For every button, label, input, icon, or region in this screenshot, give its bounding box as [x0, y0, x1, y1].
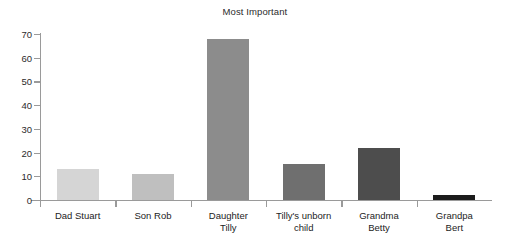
x-axis-tick: [341, 201, 342, 207]
y-axis-label: 10: [6, 171, 32, 182]
x-axis-category-label-line: Grandma: [341, 210, 416, 222]
x-axis-category-label-line: Grandpa: [417, 210, 492, 222]
x-axis-category-label-line: child: [266, 222, 341, 234]
x-axis-category-label: Dad Stuart: [40, 210, 115, 222]
x-axis-category-label: Tilly's unbornchild: [266, 210, 341, 233]
x-axis-category-label: DaughterTilly: [191, 210, 266, 233]
bar-chart: Most Important 706050403020100 Dad Stuar…: [0, 0, 510, 250]
x-axis-category-label-line: Dad Stuart: [40, 210, 115, 222]
x-axis-category-label: GrandmaBetty: [341, 210, 416, 233]
bar-1: [57, 169, 99, 200]
x-axis-tick: [115, 201, 116, 207]
x-axis-category-label-line: Tilly: [191, 222, 266, 234]
x-axis-category-label-line: Betty: [341, 222, 416, 234]
bar-6: [433, 195, 475, 200]
y-axis-label: 60: [6, 52, 32, 63]
y-axis-label: 20: [6, 147, 32, 158]
x-axis-tick: [417, 201, 418, 207]
bar-3: [207, 39, 249, 200]
y-axis-label: 30: [6, 123, 32, 134]
x-axis-category-label-line: Tilly's unborn: [266, 210, 341, 222]
x-axis-tick: [191, 201, 192, 207]
x-axis-tick: [266, 201, 267, 207]
x-axis-category-label: Son Rob: [115, 210, 190, 222]
x-axis-category-label: GrandpaBert: [417, 210, 492, 233]
plot-area: [40, 34, 492, 200]
bar-5: [358, 148, 400, 200]
chart-title: Most Important: [0, 6, 510, 17]
x-axis-line: [31, 200, 492, 201]
y-axis-label: 70: [6, 29, 32, 40]
y-axis-label: 50: [6, 76, 32, 87]
y-axis-label: 0: [6, 195, 32, 206]
x-axis-tick: [40, 201, 41, 207]
bar-2: [132, 174, 174, 200]
x-axis-category-label-line: Bert: [417, 222, 492, 234]
bar-4: [283, 164, 325, 200]
x-axis-category-label-line: Daughter: [191, 210, 266, 222]
x-axis-category-label-line: Son Rob: [115, 210, 190, 222]
y-axis-label: 40: [6, 100, 32, 111]
